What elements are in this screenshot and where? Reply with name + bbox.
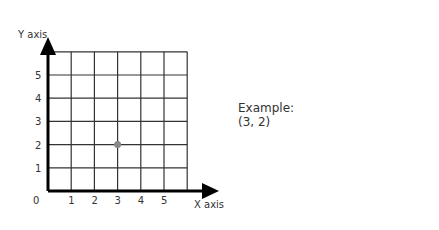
y-tick-label: 4: [35, 93, 41, 104]
y-tick-label: 2: [35, 140, 41, 151]
x-tick-label: 4: [138, 195, 144, 206]
y-tick-label: 5: [35, 70, 41, 81]
x-axis-arrow-icon: [202, 183, 219, 199]
y-tick-label: 1: [35, 163, 41, 174]
x-tick-label: 1: [68, 195, 74, 206]
x-tick-label: 3: [115, 195, 121, 206]
data-points: [114, 141, 121, 148]
example-coordinates: (3, 2): [238, 115, 294, 129]
grid-lines: [48, 52, 187, 191]
x-axis-label: X axis: [194, 199, 224, 210]
axes: [40, 37, 219, 199]
data-point: [114, 141, 121, 148]
example-annotation: Example: (3, 2): [238, 101, 294, 129]
origin-label: 0: [33, 195, 39, 206]
x-tick-label: 5: [161, 195, 167, 206]
tick-labels: 1234512345: [35, 70, 167, 206]
coordinate-grid-chart: 1234512345 Y axis X axis 0: [0, 0, 439, 230]
y-axis-label: Y axis: [17, 29, 47, 40]
y-tick-label: 3: [35, 116, 41, 127]
example-title: Example:: [238, 101, 294, 115]
x-tick-label: 2: [91, 195, 97, 206]
